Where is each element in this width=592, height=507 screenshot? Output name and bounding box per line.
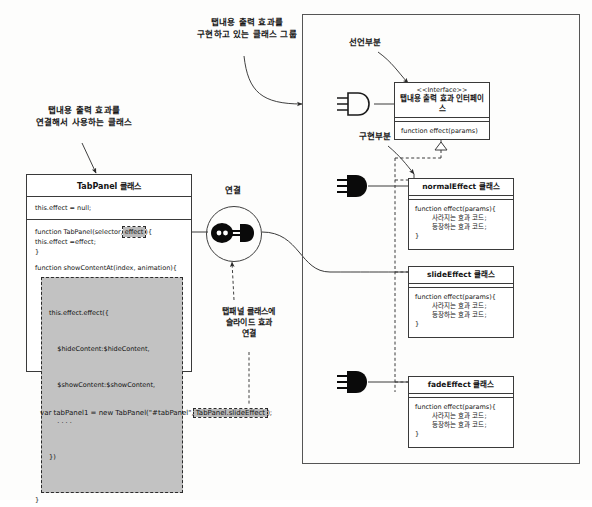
bottom-code-prefix: var tabPanel1 = new TabPanel("#tabPanel"…: [40, 409, 194, 417]
uml-tabpanel-box: TabPanel 클래스 this.effect = null; functio…: [26, 174, 192, 372]
uml-fadeeffect-box: fadeEffect 클래스 function effect(params){ …: [408, 376, 514, 448]
fadeeffect-header: fadeEffect 클래스: [409, 377, 513, 394]
interface-operation: function effect(params): [401, 127, 483, 136]
code-line: }: [415, 430, 507, 439]
interface-body: function effect(params): [395, 122, 489, 141]
slideeffect-body: function effect(params){ 사라지는 효과 코드; 등장하…: [409, 288, 513, 334]
constructor-close: }: [35, 247, 183, 257]
constructor-prefix: function TabPanel(selector,: [35, 228, 123, 236]
code-line: 등장하는 효과 코드;: [415, 311, 507, 320]
code-line: $hideContent:$hideContent,: [49, 343, 175, 355]
uml-slideeffect-box: slideEffect 클래스 function effect(params){…: [408, 266, 514, 338]
fadeeffect-body: function effect(params){ 사라지는 효과 코드; 등장하…: [409, 398, 513, 444]
slideeffect-header: slideEffect 클래스: [409, 267, 513, 284]
method-signature: function showContentAt(index, animation)…: [35, 263, 183, 273]
code-line: 사라지는 효과 코드;: [415, 412, 507, 421]
code-line: function effect(params){: [415, 403, 507, 412]
method-close: }: [35, 495, 183, 505]
code-line: 등장하는 효과 코드;: [415, 421, 507, 430]
normaleffect-header: normalEffect 클래스: [409, 179, 513, 196]
left-class-note: 탭내용 출력 효과를연결해서 사용하는 클래스: [14, 104, 154, 128]
tabpanel-title: TabPanel 클래스: [27, 175, 191, 197]
code-line: $showContent:$showContent,: [49, 379, 175, 391]
constructor-param-highlight: effect: [123, 227, 146, 237]
tabpanel-operations: function TabPanel(selector,effect){ this…: [27, 220, 191, 507]
constructor-body: this.effect =effect;: [35, 237, 183, 247]
code-line: 사라지는 효과 코드;: [415, 302, 507, 311]
uml-normaleffect-box: normalEffect 클래스 function effect(params)…: [408, 178, 514, 250]
interface-stereotype: <<Interface>>: [397, 86, 487, 94]
arrow-group-note: [244, 56, 302, 104]
constructor-signature: function TabPanel(selector,effect){: [35, 227, 183, 237]
group-note: 탭내용 출력 효과를구현하고 있는 클래스 그룹: [172, 16, 322, 40]
bottom-note: 탭패널 클래스에슬라이드 효과연결: [206, 306, 292, 339]
normaleffect-body: function effect(params){ 사라지는 효과 코드; 등장하…: [409, 200, 513, 246]
code-line: }): [49, 451, 175, 463]
connect-label: 연결: [201, 184, 265, 196]
code-line: }: [415, 232, 507, 241]
code-line: this.effect.effect({: [49, 307, 175, 319]
code-line: function effect(params){: [415, 293, 507, 302]
tabpanel-attribute: this.effect = null;: [27, 197, 191, 220]
bottom-code-highlight: TabPanel.slideEffect: [194, 409, 267, 417]
code-line: function effect(params){: [415, 205, 507, 214]
code-line: 사라지는 효과 코드;: [415, 214, 507, 223]
code-line: 등장하는 효과 코드;: [415, 223, 507, 232]
bottom-code-suffix: );: [267, 409, 272, 417]
constructor-suffix: ){: [145, 228, 152, 236]
arrow-left-note: [82, 143, 96, 173]
code-line: }: [415, 320, 507, 329]
bottom-code-line: var tabPanel1 = new TabPanel("#tabPanel"…: [40, 409, 272, 417]
plug-connected-icon: [211, 221, 255, 245]
interface-title: 탭내용 출력 효과 인터페이스: [400, 94, 485, 113]
uml-interface-box: <<Interface>> 탭내용 출력 효과 인터페이스 function e…: [394, 82, 490, 140]
arrow-bottom-note-to-hub: [232, 262, 234, 300]
interface-header: <<Interface>> 탭내용 출력 효과 인터페이스: [395, 83, 489, 118]
highlighted-code-block: this.effect.effect({ $hideContent:$hideC…: [41, 277, 183, 493]
